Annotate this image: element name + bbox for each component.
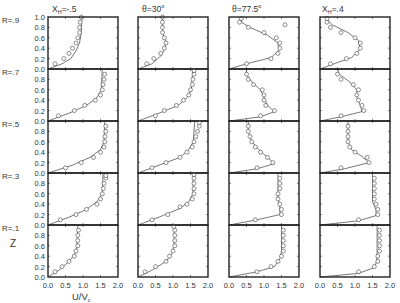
measured-point (276, 197, 280, 201)
measured-point (102, 181, 106, 185)
measured-point (60, 265, 64, 269)
y-tick-label: 0.6 (35, 242, 45, 251)
measured-point (187, 93, 191, 97)
y-tick-label: 0.4 (35, 44, 45, 53)
measured-point (150, 166, 154, 170)
x-tick-label: 0.5 (241, 281, 251, 290)
measured-point (376, 254, 380, 258)
measured-point (280, 207, 284, 211)
measured-point (336, 72, 340, 76)
measured-point (102, 145, 106, 149)
measured-point (376, 213, 380, 217)
velocity-profile-figure: 0.00.20.40.60.81.0R=.90.00.20.40.60.8R=.… (0, 0, 400, 303)
measured-point (178, 155, 182, 159)
column-title: XH=-.5 (52, 4, 77, 15)
measured-point (374, 202, 378, 206)
column-title: XH=.4 (322, 4, 344, 15)
measured-point (76, 36, 80, 40)
measured-point (192, 187, 196, 191)
measured-point (78, 25, 82, 29)
measured-point (246, 77, 250, 81)
measured-point (278, 181, 282, 185)
measured-point (166, 213, 170, 217)
x-tick-label: 2.0 (203, 281, 213, 290)
y-tick-label: 0.2 (35, 159, 45, 168)
measured-point (360, 103, 364, 107)
measured-point (168, 254, 172, 258)
measured-point (72, 254, 76, 258)
measured-point (346, 124, 350, 128)
measured-point (164, 259, 168, 263)
measured-point (245, 62, 249, 66)
measured-point (196, 129, 200, 133)
measured-point (278, 176, 282, 180)
y-tick-label: 0.4 (35, 200, 45, 209)
measured-point (358, 41, 362, 45)
measured-point (76, 239, 80, 243)
measured-point (281, 228, 285, 232)
measured-point (358, 46, 362, 50)
measured-point (103, 135, 107, 139)
measured-point (280, 213, 284, 217)
x-tick-label: 1.5 (367, 281, 377, 290)
row-label: R=.5 (2, 120, 20, 129)
measured-point (192, 192, 196, 196)
measured-point (102, 77, 106, 81)
y-tick-label: 0.2 (35, 211, 45, 220)
measured-point (191, 77, 195, 81)
x-axis-label: U/Vc (72, 291, 91, 303)
measured-point (378, 239, 382, 243)
column-title: θ=30o (142, 3, 164, 14)
measured-point (266, 155, 270, 159)
measured-point (145, 62, 149, 66)
computed-curve (229, 69, 275, 121)
measured-point (372, 265, 376, 269)
measured-point (74, 249, 78, 253)
measured-point (104, 174, 108, 178)
measured-point (259, 114, 263, 118)
measured-point (344, 57, 348, 61)
measured-point (264, 103, 268, 107)
x-tick-label: 1.5 (185, 281, 195, 290)
measured-point (271, 161, 275, 165)
measured-point (194, 135, 198, 139)
measured-point (62, 57, 66, 61)
measured-point (57, 114, 61, 118)
measured-point (278, 41, 282, 45)
measured-point (378, 233, 382, 237)
measured-point (378, 244, 382, 248)
y-tick-label: 0.0 (35, 65, 45, 74)
axis-labels: 0.00.20.40.60.81.0R=.90.00.20.40.60.8R=.… (2, 3, 395, 303)
measured-point (339, 77, 343, 81)
measured-point (346, 129, 350, 133)
measured-point (253, 218, 257, 222)
measured-point (104, 124, 108, 128)
measured-point (276, 51, 280, 55)
panel-θ=77.5°-R=.9 (229, 17, 299, 69)
y-tick-label: 1.0 (35, 13, 45, 22)
measured-point (162, 46, 166, 50)
measured-point (175, 103, 179, 107)
measured-point (182, 98, 186, 102)
y-tick-label: 0.0 (35, 117, 45, 126)
measured-point (372, 176, 376, 180)
computed-curve (138, 121, 195, 173)
row-label: R=.7 (2, 68, 20, 77)
y-tick-label: 0.2 (35, 107, 45, 116)
measured-point (253, 145, 257, 149)
measured-point (255, 166, 259, 170)
measured-point (79, 161, 83, 165)
measured-point (101, 83, 105, 87)
panel-X_H=-.5-R=.9 (48, 15, 118, 69)
computed-curve (229, 121, 275, 173)
measured-point (185, 150, 189, 154)
measured-point (185, 202, 189, 206)
measured-point (353, 150, 357, 154)
panel-X_H=.4-R=.3 (320, 173, 390, 225)
measured-point (357, 218, 361, 222)
measured-point (104, 129, 108, 133)
measured-point (173, 233, 177, 237)
measured-point (262, 31, 266, 35)
computed-curve (138, 225, 174, 277)
measured-point (58, 218, 62, 222)
